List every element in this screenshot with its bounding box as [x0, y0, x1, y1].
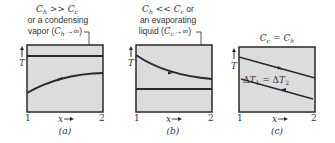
panel-b-y-arrowhead-icon: [129, 46, 133, 50]
panel-a-y-label: T: [19, 58, 26, 68]
panel-a-title-line2: or a condensing: [28, 15, 89, 25]
panel-a-caption: (a): [59, 126, 72, 136]
panel-c-caption: (c): [271, 126, 284, 136]
panel-c-x-label: x: [272, 114, 277, 124]
panel-a-title-line3: vapor (Ch→∞): [28, 26, 82, 37]
panel-a-y-arrowhead-icon: [20, 46, 24, 50]
panel-c-y-arrowhead-icon: [232, 48, 236, 52]
panel-a-x-start: 1: [25, 113, 31, 123]
panel-a-x-end: 2: [99, 113, 105, 123]
panel-b-title-line1: Ch << Cc or: [142, 4, 194, 15]
panel-b-x-end: 2: [208, 113, 214, 123]
panel-b-title-line3: liquid (Cc→∞): [139, 26, 191, 37]
panel-b-x-label: x: [166, 114, 171, 124]
panel-c-x-arrowhead-icon: [284, 117, 288, 121]
panel-b-y-label: T: [128, 58, 135, 68]
panel-a-x-label: x: [58, 114, 63, 124]
panel-b-caption: (b): [167, 126, 180, 136]
panel-c-x-start: 1: [237, 113, 243, 123]
panel-c-y-label: T: [231, 61, 238, 71]
panel-a-x-arrowhead-icon: [70, 117, 74, 121]
panel-a-title-line1: Ch >> Cc: [36, 4, 78, 15]
heat-exchanger-temperature-diagrams: Ch >> Cc or a condensing vapor (Ch→∞) T …: [0, 0, 335, 143]
panel-b-x-arrowhead-icon: [178, 117, 182, 121]
panel-a: Ch >> Cc or a condensing vapor (Ch→∞) T …: [19, 4, 105, 136]
panel-b-title-line2: an evaporating: [140, 15, 197, 25]
panel-c-title: Cc = Ch: [260, 33, 294, 44]
panel-c-delta-annotation: ΔT1 = ΔT2: [243, 75, 289, 86]
panel-b-x-start: 1: [134, 113, 140, 123]
panel-b: Ch << Cc or an evaporating liquid (Cc→∞)…: [128, 4, 214, 136]
panel-c: Cc = Ch ΔT1 = ΔT2 T 1 2 x (c): [231, 33, 317, 136]
panel-c-x-end: 2: [311, 113, 317, 123]
